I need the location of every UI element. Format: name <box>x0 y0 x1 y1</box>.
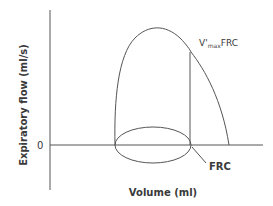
vmax-prefix: V' <box>199 38 208 48</box>
frc-label: FRC <box>209 161 231 172</box>
frc-pointer-line <box>192 147 206 163</box>
y-axis-label: Expiratory flow (ml/s) <box>18 44 29 166</box>
x-axis-label: Volume (ml) <box>129 187 197 198</box>
vmax-frc-label: V'maxFRC <box>199 38 238 49</box>
vmax-sub: max <box>208 42 222 49</box>
vmax-suffix: FRC <box>221 38 238 48</box>
flow-volume-diagram: 0 Expiratory flow (ml/s) Volume (ml) V'm… <box>0 0 273 206</box>
zero-tick-label: 0 <box>37 140 43 151</box>
